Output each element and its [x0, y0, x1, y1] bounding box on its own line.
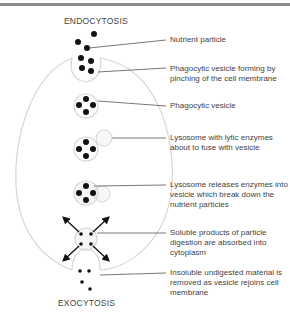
label-insoluble-material: Insoluble undigested material is removed…: [170, 268, 288, 299]
exocytosis-title: EXOCYTOSIS: [58, 298, 115, 308]
endocytosis-title: ENDOCYTOSIS: [64, 16, 128, 26]
exocytosis-particles: [78, 269, 92, 291]
lysosome-approaching: [74, 130, 112, 161]
label-lysosome-about-to-fuse: Lysosome with lytic enzymes about to fus…: [170, 133, 288, 153]
label-phagocytic-vesicle: Phagocytic vesicle: [170, 101, 288, 111]
phagocytic-vesicle: [74, 94, 98, 118]
label-lysosome-releases-enzymes: Lysosome releases enzymes into vesicle w…: [170, 180, 288, 211]
forming-vesicle-particles: [78, 55, 94, 74]
leader-lines: [89, 40, 166, 275]
label-phagocytic-vesicle-forming: Phagocytic vesicle forming by pinching o…: [170, 64, 288, 84]
digestion-vesicle: [64, 218, 108, 260]
lysosome-fusing: [74, 181, 110, 205]
label-nutrient-particle: Nutrient particle: [170, 35, 288, 45]
nutrient-particles: [75, 31, 97, 51]
label-soluble-products: Soluble products of particle digestion a…: [170, 228, 288, 259]
